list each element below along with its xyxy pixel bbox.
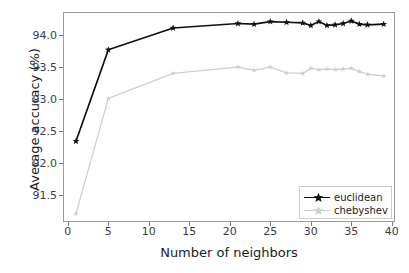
legend-swatch-euclidean	[304, 192, 330, 203]
chart-legend[interactable]: euclidean chebyshev	[299, 186, 392, 219]
x-tick-mark	[311, 222, 312, 226]
data-point-marker	[332, 67, 338, 72]
x-tick-label: 20	[223, 226, 237, 237]
legend-item-euclidean[interactable]: euclidean	[304, 191, 387, 203]
legend-item-chebyshev[interactable]: chebyshev	[304, 204, 387, 216]
x-tick-label: 10	[142, 226, 156, 237]
data-point-marker	[340, 66, 346, 71]
x-tick-mark	[108, 222, 109, 226]
data-point-marker	[316, 67, 322, 72]
x-tick-label: 15	[182, 226, 196, 237]
series-line-euclidean	[76, 21, 384, 141]
y-tick-mark	[59, 163, 63, 164]
x-tick-mark	[68, 222, 69, 226]
legend-swatch-chebyshev	[304, 205, 330, 216]
data-point-marker	[299, 19, 306, 26]
x-tick-label: 5	[105, 226, 112, 237]
x-tick-mark	[230, 222, 231, 226]
data-point-marker	[73, 138, 80, 145]
x-tick-mark	[351, 222, 352, 226]
data-point-marker	[356, 21, 363, 28]
y-tick-mark	[59, 195, 63, 196]
data-point-marker	[300, 71, 306, 76]
data-point-marker	[332, 21, 339, 28]
data-point-marker	[251, 67, 257, 72]
x-tick-mark	[149, 222, 150, 226]
x-tick-label: 30	[304, 226, 318, 237]
x-axis-title: Number of neighbors	[63, 245, 395, 260]
data-point-marker	[365, 71, 371, 76]
y-tick-mark	[59, 67, 63, 68]
data-point-marker	[268, 64, 274, 69]
data-point-marker	[267, 18, 274, 25]
data-point-marker	[348, 17, 355, 24]
data-point-marker	[380, 21, 387, 28]
star-icon	[313, 192, 324, 203]
data-point-marker	[381, 73, 387, 78]
legend-label-euclidean: euclidean	[330, 192, 383, 203]
data-point-marker	[284, 70, 290, 75]
data-point-marker	[364, 21, 371, 28]
data-point-marker	[170, 71, 176, 76]
data-point-marker	[307, 22, 314, 29]
x-tick-label: 40	[385, 226, 399, 237]
y-tick-mark	[59, 35, 63, 36]
x-tick-mark	[392, 222, 393, 226]
x-tick-label: 35	[344, 226, 358, 237]
data-point-marker	[73, 211, 79, 216]
y-tick-mark	[59, 131, 63, 132]
legend-label-chebyshev: chebyshev	[330, 205, 388, 216]
data-point-marker	[234, 20, 241, 27]
x-tick-label: 0	[64, 226, 71, 237]
y-tick-mark	[59, 99, 63, 100]
series-euclidean	[73, 17, 388, 144]
data-point-marker	[340, 20, 347, 27]
x-tick-mark	[270, 222, 271, 226]
data-point-marker	[235, 64, 241, 69]
data-point-marker	[170, 24, 177, 31]
star-icon	[313, 205, 324, 216]
x-tick-label: 25	[263, 226, 277, 237]
data-point-marker	[251, 21, 258, 28]
y-axis-title: Average accuracy (%)	[27, 20, 42, 220]
data-point-marker	[357, 69, 363, 74]
data-point-marker	[324, 66, 330, 71]
data-point-marker	[324, 22, 331, 29]
data-point-marker	[283, 19, 290, 26]
data-point-marker	[349, 65, 355, 70]
x-tick-mark	[189, 222, 190, 226]
figure-canvas: 91.592.092.593.093.594.0 051015202530354…	[0, 0, 409, 273]
